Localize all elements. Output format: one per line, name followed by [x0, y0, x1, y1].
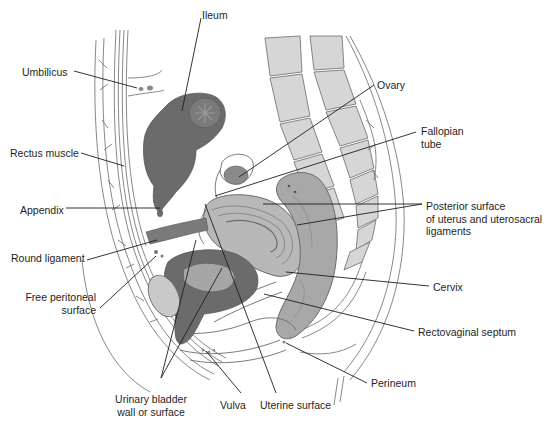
label-appendix: Appendix — [20, 204, 64, 217]
anatomy-figure: IleumUmbilicusOvaryFallopian tubeRectus … — [0, 0, 549, 425]
label-posterior-surface: Posterior surface of uterus and uterosac… — [426, 200, 542, 238]
label-ileum: Ileum — [202, 9, 228, 22]
label-fallopian-tube: Fallopian tube — [421, 125, 464, 150]
leader-line-rectus-muscle — [81, 153, 124, 166]
label-perineum: Perineum — [371, 377, 416, 390]
label-rectus-muscle: Rectus muscle — [10, 147, 79, 160]
leader-line-free-peritoneal-surface — [100, 256, 156, 308]
ileum — [143, 93, 225, 217]
label-umbilicus: Umbilicus — [22, 66, 68, 79]
label-rectovaginal-septum: Rectovaginal septum — [418, 326, 516, 339]
label-urinary-bladder: Urinary bladder wall or surface — [109, 393, 193, 418]
leader-line-vulva — [206, 351, 241, 393]
label-uterine-surface: Uterine surface — [260, 399, 331, 412]
label-free-peritoneal-surface: Free peritoneal surface — [25, 291, 96, 316]
label-cervix: Cervix — [433, 281, 463, 294]
vulva-vessels — [202, 337, 292, 354]
label-ovary: Ovary — [377, 79, 405, 92]
umbilicus-vessels — [139, 86, 154, 92]
ovary — [215, 154, 253, 200]
label-vulva: Vulva — [220, 399, 246, 412]
label-round-ligament: Round ligament — [11, 252, 85, 265]
leader-line-perineum — [286, 343, 367, 383]
